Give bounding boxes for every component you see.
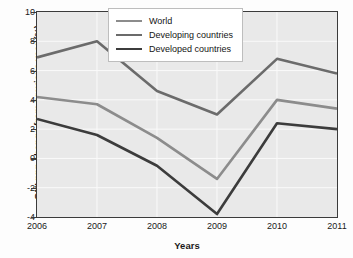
x-axis-title: Years: [36, 240, 338, 251]
x-axis-tick-label: 2011: [315, 221, 353, 231]
legend-item: Developing countries: [116, 28, 233, 42]
series-line: [37, 119, 337, 214]
legend-item: World: [116, 14, 233, 28]
x-axis-tick-label: 2007: [75, 221, 119, 231]
legend-label: Developed countries: [149, 44, 231, 54]
x-axis-tick-label: 2009: [195, 221, 239, 231]
series-line: [37, 97, 337, 179]
x-axis-tick-label: 2008: [135, 221, 179, 231]
x-axis-tick-label: 2006: [15, 221, 59, 231]
legend-line-icon: [116, 20, 142, 23]
legend-label: World: [149, 16, 172, 26]
x-axis-tick-label: 2010: [255, 221, 299, 231]
legend-item: Developed countries: [116, 42, 233, 56]
legend-line-icon: [116, 48, 142, 51]
chart-legend: WorldDeveloping countriesDeveloped count…: [108, 8, 243, 62]
legend-label: Developing countries: [149, 30, 233, 40]
legend-line-icon: [116, 34, 142, 37]
chart-figure: GNI ppp change from previous year (%) Ye…: [0, 0, 353, 258]
